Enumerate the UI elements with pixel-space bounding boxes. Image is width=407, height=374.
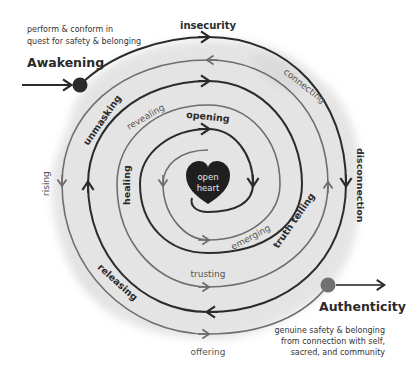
stage-label-disconnection: disconnection: [355, 148, 366, 223]
start-dot: [73, 78, 88, 93]
end-dot: [321, 278, 336, 293]
end-title: Authenticity: [319, 299, 406, 314]
start-caption-line-2: quest for safety & belonging: [27, 36, 141, 48]
stage-label-trusting: trusting: [190, 269, 225, 279]
end-caption-line-3: sacred, and community: [291, 347, 385, 359]
center-label-line-2: heart: [197, 183, 220, 193]
stage-label-rising: rising: [41, 171, 51, 196]
start-title: Awakening: [27, 55, 104, 70]
stage-label-healing: healing: [121, 165, 132, 205]
stage-label-insecurity: insecurity: [180, 20, 236, 31]
start-caption-line-1: perform & conform in: [27, 24, 113, 36]
stage-label-offering: offering: [191, 347, 226, 357]
center-label-line-1: open: [197, 172, 218, 182]
